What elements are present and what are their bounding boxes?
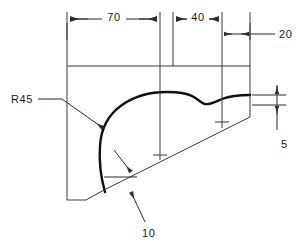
annotation-r45: R45 <box>11 93 103 128</box>
radius-internal-arrow <box>104 150 137 177</box>
outline-corner-chamfer <box>86 190 104 200</box>
r45-label: R45 <box>11 93 33 105</box>
center-marks <box>153 122 229 155</box>
dim-20-label: 20 <box>279 28 292 40</box>
part-outline <box>67 23 250 200</box>
annotation-10: 10 <box>131 192 155 239</box>
radius-inner-arrow <box>114 150 131 172</box>
leader-10-label: 10 <box>142 227 155 239</box>
outline-slant-edge <box>104 117 250 190</box>
drawing-canvas: 70 40 20 5 R45 <box>0 0 296 245</box>
dim-70-label: 70 <box>107 11 120 23</box>
dimension-20: 20 <box>224 28 292 40</box>
technical-drawing-svg: 70 40 20 5 R45 <box>0 0 296 245</box>
dim-5-label: 5 <box>281 138 288 150</box>
dimension-5: 5 <box>252 85 288 150</box>
dimension-40: 40 <box>176 9 219 24</box>
dimension-70: 70 <box>70 9 157 24</box>
r45-leader-arrow <box>62 99 103 128</box>
leader-10-arrow <box>131 192 145 222</box>
dim-40-label: 40 <box>191 11 204 23</box>
extension-lines <box>67 12 250 160</box>
